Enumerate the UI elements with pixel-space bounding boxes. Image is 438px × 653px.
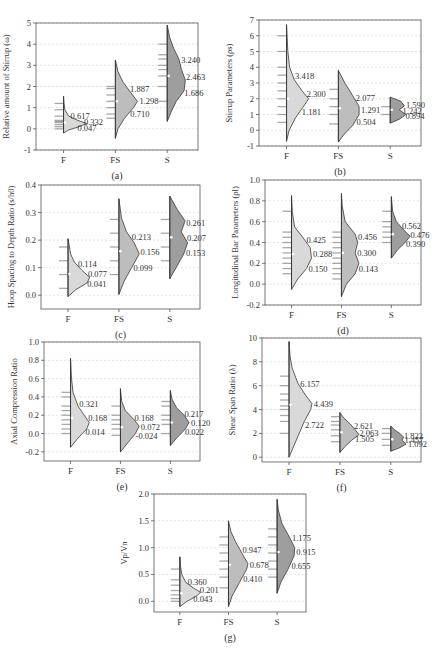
violin-FS: 0.2130.1560.099 — [110, 199, 160, 295]
y-tick-label: 0.6 — [28, 374, 39, 384]
y-axis: 0246810 — [249, 333, 263, 462]
y-tick-label: -0.2 — [26, 447, 39, 457]
label-q1: 0.047 — [77, 123, 96, 133]
violin-FS: 0.9470.6780.410 — [219, 521, 268, 607]
x-tick-label: FS — [223, 617, 233, 627]
y-tick-label: 0 — [27, 124, 31, 134]
violin-S: 1.8221.4571.092 — [382, 426, 427, 451]
y-tick-label: 10 — [249, 333, 258, 343]
label-median: 0.168 — [88, 413, 107, 423]
y-tick-label: 6 — [253, 381, 257, 391]
label-q1: 1.181 — [302, 107, 321, 117]
violin-body — [341, 194, 358, 297]
y-tick-label: 1.5 — [138, 516, 149, 526]
y-tick-label: 8 — [253, 357, 257, 367]
y-axis: -1012345 — [24, 18, 36, 155]
y-tick-label: 5 — [250, 47, 254, 57]
label-median: 0.288 — [313, 249, 332, 259]
y-tick-label: 1.0 — [249, 175, 260, 185]
chart-panel-g: 0.00.51.01.52.0Vp/VnFFSS(g)0.3600.2010.0… — [114, 490, 310, 653]
violin-S: 1.1750.9150.655 — [268, 499, 315, 593]
y-tick-label: -1 — [24, 145, 31, 155]
x-tick-label: FS — [335, 467, 345, 477]
x-tick-label: S — [167, 314, 172, 324]
violin-F: 0.3210.1680.014 — [62, 358, 108, 447]
x-tick-label: S — [389, 310, 394, 320]
y-axis-title: Relative amount of Stirrup (ω) — [1, 34, 11, 138]
y-axis-title: Vp/Vn — [119, 541, 129, 565]
label-median: 1.291 — [361, 105, 380, 115]
y-tick-label: 3 — [250, 78, 254, 88]
mean-marker — [121, 426, 124, 429]
y-axis-title: Stirrup Parameters (ρs) — [224, 43, 234, 122]
violin-body — [115, 60, 137, 138]
mean-marker — [229, 564, 232, 567]
label-q3: 1.887 — [130, 84, 149, 94]
y-tick-label: 4 — [253, 405, 258, 415]
label-q1: 0.710 — [130, 109, 149, 119]
y-tick-label: 1.0 — [28, 337, 39, 347]
violin-FS: 0.4560.3000.143 — [332, 194, 377, 297]
y-tick-label: 0.0 — [28, 429, 39, 439]
x-tick-label: FS — [115, 466, 125, 476]
x-tick-label: F — [66, 314, 71, 324]
violin-F: 0.3600.2010.043 — [171, 557, 219, 607]
label-median: 0.678 — [250, 560, 269, 570]
x-tick-label: S — [388, 151, 393, 161]
y-tick-label: 1.0 — [138, 543, 149, 553]
y-axis-title: Longitudinal Bar Parameters (ρl) — [230, 186, 240, 299]
x-axis: FFSS — [284, 146, 393, 161]
mean-marker — [342, 252, 345, 255]
label-q1: 0.153 — [186, 248, 205, 258]
y-tick-label: 0.2 — [249, 258, 260, 268]
x-tick-label: S — [275, 617, 280, 627]
y-tick-label: 0.4 — [249, 238, 260, 248]
violin-F: 3.4182.3001.181 — [278, 25, 326, 142]
chart-panel-c: 0.00.10.20.30.4Hoop Spacing to Depth Rat… — [1, 181, 204, 353]
label-q3: 0.114 — [78, 259, 98, 269]
violin-S: 1.5901.2420.894 — [381, 97, 425, 123]
label-q1: 0.504 — [357, 117, 377, 127]
violin-FS: 2.6212.0631.505 — [331, 413, 379, 453]
label-q1: 1.686 — [184, 88, 203, 98]
label-q1: 0.655 — [291, 561, 310, 571]
mean-marker — [71, 417, 74, 420]
y-tick-label: 2 — [250, 94, 254, 104]
violin-body — [338, 70, 359, 142]
y-axis-title: Shear Span Ratio (λ) — [227, 364, 237, 435]
mean-marker — [116, 100, 119, 103]
y-tick-label: 0.0 — [25, 290, 36, 300]
y-tick-label: -0.2 — [247, 300, 260, 310]
violin-F: 6.1574.4392.722 — [280, 342, 333, 458]
label-median: 1.298 — [139, 96, 158, 106]
mean-marker — [390, 108, 393, 111]
y-tick-label: 1 — [250, 110, 254, 120]
label-q1: 0.041 — [87, 279, 106, 289]
y-tick-label: 0.4 — [25, 180, 36, 190]
mean-marker — [171, 421, 174, 424]
mean-marker — [339, 107, 342, 110]
y-tick-label: 7 — [250, 15, 254, 25]
x-tick-label: S — [388, 467, 393, 477]
y-tick-label: 0.0 — [138, 596, 149, 606]
y-tick-label: -1 — [247, 141, 254, 151]
mean-marker — [340, 431, 343, 434]
label-q1: 0.143 — [359, 264, 378, 274]
violin-FS: 0.1680.072-0.024 — [111, 389, 159, 452]
x-tick-label: S — [165, 155, 170, 165]
label-q1: 0.390 — [406, 239, 425, 249]
violin-FS: 1.8871.2980.710 — [106, 60, 158, 138]
label-q3: 2.077 — [356, 93, 375, 103]
y-tick-label: 3 — [27, 60, 31, 70]
violin-FS: 2.0771.2910.504 — [329, 70, 380, 142]
y-axis: 0.00.51.01.52.0 — [138, 489, 154, 606]
x-tick-label: F — [177, 617, 182, 627]
label-q1: 0.150 — [308, 264, 327, 274]
x-tick-label: F — [287, 467, 292, 477]
label-q1: -0.024 — [136, 431, 159, 441]
x-tick-label: S — [168, 466, 173, 476]
y-axis: 0.00.10.20.30.4 — [25, 180, 41, 300]
label-q1: 0.410 — [243, 574, 262, 584]
panel-label: (g) — [224, 632, 236, 644]
chart-panel-b: -101234567Stirrup Parameters (ρs)FFSS(b)… — [219, 16, 425, 190]
